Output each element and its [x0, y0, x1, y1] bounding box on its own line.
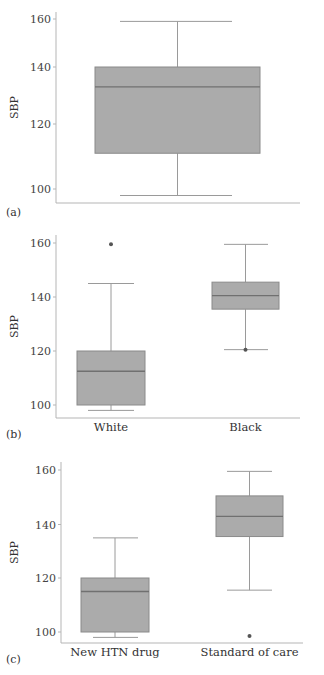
y-axis-title: SBP: [8, 314, 21, 338]
y-tick-label: 100: [30, 399, 51, 412]
boxplot-panel-b: 100120140160SBPWhiteBlack(b): [6, 235, 300, 441]
box-new-htn-drug: New HTN drug: [70, 538, 160, 659]
x-category-label: Black: [229, 420, 262, 434]
y-axis-title: SBP: [8, 540, 21, 564]
y-tick-label: 100: [30, 183, 51, 196]
y-tick-label: 160: [30, 13, 51, 26]
box-white: White: [77, 242, 145, 434]
panel-label: (a): [6, 206, 21, 219]
y-tick-label: 140: [35, 519, 56, 532]
boxplot-figure: 100120140160SBP(a) 100120140160SBPWhiteB…: [0, 0, 324, 675]
panel-label: (b): [6, 428, 22, 441]
box-black: Black: [212, 244, 279, 434]
y-tick-label: 160: [35, 464, 56, 477]
outlier-point: [109, 242, 113, 246]
y-tick-label: 140: [30, 61, 51, 74]
interquartile-box: [81, 578, 149, 632]
x-category-label: White: [94, 420, 129, 434]
y-tick-label: 120: [30, 118, 51, 131]
x-category-label: New HTN drug: [70, 645, 160, 659]
y-tick-label: 120: [35, 572, 56, 585]
y-tick-label: 100: [35, 626, 56, 639]
box-standard-of-care: Standard of care: [201, 471, 299, 659]
x-category-label: Standard of care: [201, 645, 299, 659]
y-axis-title: SBP: [8, 95, 21, 119]
y-tick-label: 140: [30, 291, 51, 304]
interquartile-box: [77, 351, 145, 405]
y-tick-label: 160: [30, 237, 51, 250]
boxplot-panel-a: 100120140160SBP(a): [6, 12, 300, 219]
panel-label: (c): [6, 653, 21, 666]
box-all: [95, 21, 260, 195]
y-tick-label: 120: [30, 345, 51, 358]
outlier-point: [244, 348, 248, 352]
interquartile-box: [95, 67, 260, 153]
outlier-point: [248, 634, 252, 638]
boxplot-panel-c: 100120140160SBPNew HTN drugStandard of c…: [6, 462, 303, 666]
